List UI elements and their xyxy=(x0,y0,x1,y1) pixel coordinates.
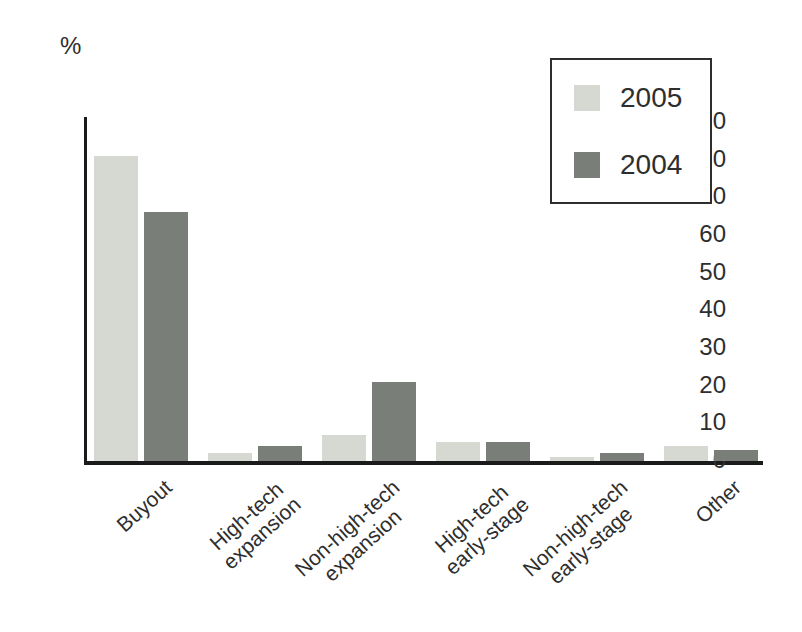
legend-swatch-2005 xyxy=(574,85,600,111)
x-axis-category-label: Buyout xyxy=(112,476,176,537)
legend-item-2005: 2005 xyxy=(574,84,682,112)
y-tick-label: 60 xyxy=(686,220,726,248)
x-axis-category-label: Non-high-tech early-stage xyxy=(519,476,647,598)
legend: 2005 2004 xyxy=(550,58,712,204)
x-axis-category-label: High-tech expansion xyxy=(204,476,305,574)
bar-2004-high-tech xyxy=(258,446,302,461)
bar-2005-buyout xyxy=(94,156,138,461)
y-axis-unit-label: % xyxy=(60,32,81,60)
y-tick-label: 10 xyxy=(686,408,726,436)
bar-2005-non-high-tech xyxy=(322,435,366,461)
x-axis-line xyxy=(84,461,763,465)
x-axis-category-label: High-tech early-stage xyxy=(426,476,534,579)
x-axis-category-label: Other xyxy=(692,476,746,528)
y-axis-line xyxy=(84,117,87,465)
x-axis-category-label: Non-high-tech expansion xyxy=(291,476,419,598)
bar-2004-non-high-tech xyxy=(372,382,416,461)
y-tick-label: 40 xyxy=(686,295,726,323)
bar-2004-other xyxy=(714,450,758,461)
legend-swatch-2004 xyxy=(574,152,600,178)
y-tick-label: 30 xyxy=(686,333,726,361)
legend-label-2004: 2004 xyxy=(620,151,682,179)
bar-2005-other xyxy=(664,446,708,461)
bar-2005-non-high-tech xyxy=(550,457,594,461)
bar-2005-high-tech xyxy=(436,442,480,461)
bar-2004-high-tech xyxy=(486,442,530,461)
y-tick-label: 20 xyxy=(686,371,726,399)
legend-label-2005: 2005 xyxy=(620,84,682,112)
legend-item-2004: 2004 xyxy=(574,151,682,179)
bar-2005-high-tech xyxy=(208,453,252,461)
bar-2004-buyout xyxy=(144,212,188,461)
bar-2004-non-high-tech xyxy=(600,453,644,461)
bar-chart-figure: % 0102030405060708090 BuyoutHigh-tech ex… xyxy=(0,0,802,632)
y-tick-label: 50 xyxy=(686,258,726,286)
